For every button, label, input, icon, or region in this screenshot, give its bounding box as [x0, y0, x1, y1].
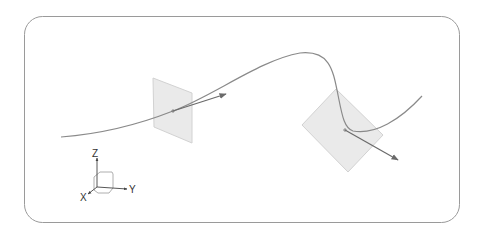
x-axis-label: X: [80, 192, 87, 203]
diagram-svg: Z Y X: [0, 0, 481, 238]
diagram-canvas: Z Y X: [0, 0, 481, 238]
y-axis-label: Y: [129, 184, 136, 195]
z-axis-label: Z: [92, 148, 98, 159]
